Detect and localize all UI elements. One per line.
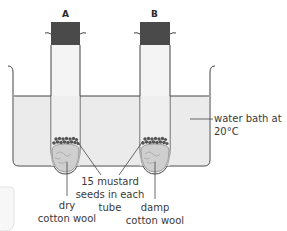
bung-b xyxy=(140,22,170,45)
faint-panel-shape xyxy=(0,187,14,231)
damp-label-line1: damp xyxy=(115,202,195,214)
damp-label-line2: cotton wool xyxy=(115,215,195,227)
dry-label-line1: dry xyxy=(27,200,107,212)
water-bath-label-line1: water bath at xyxy=(214,113,282,125)
water-bath-label-line2: 20°C xyxy=(214,126,239,138)
tube-b xyxy=(134,22,176,174)
tube-b-label: B xyxy=(151,9,158,19)
tube-a xyxy=(45,22,86,174)
dry-cotton-wool xyxy=(52,144,79,172)
seeds-label-line1: 15 mustard xyxy=(70,176,150,188)
water xyxy=(14,96,209,165)
dry-label-line2: cotton wool xyxy=(27,213,107,225)
tube-a-label: A xyxy=(62,9,69,19)
bung-a xyxy=(51,22,80,45)
